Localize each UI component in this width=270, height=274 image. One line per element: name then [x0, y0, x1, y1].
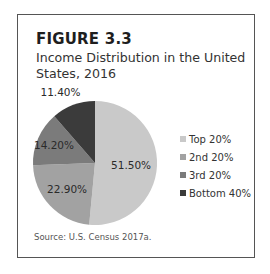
legend-label: 2nd 20%: [189, 152, 233, 163]
legend-item-2nd-20: 2nd 20%: [180, 148, 251, 166]
source-note: Source: U.S. Census 2017a.: [34, 232, 152, 242]
legend-swatch: [180, 136, 186, 142]
legend-swatch: [180, 190, 186, 196]
legend-label: Top 20%: [189, 134, 231, 145]
legend-item-bottom-40: Bottom 40%: [180, 184, 251, 202]
legend-swatch: [180, 172, 186, 178]
data-label-bottom-40: 11.40%: [40, 86, 80, 98]
legend-item-3rd-20: 3rd 20%: [180, 166, 251, 184]
data-label-2nd-20: 22.90%: [47, 183, 87, 195]
legend-swatch: [180, 154, 186, 160]
legend: Top 20%2nd 20%3rd 20%Bottom 40%: [180, 130, 251, 202]
data-label-top-20: 51.50%: [111, 159, 151, 171]
legend-label: Bottom 40%: [189, 188, 251, 199]
legend-label: 3rd 20%: [189, 170, 231, 181]
legend-item-top-20: Top 20%: [180, 130, 251, 148]
data-label-3rd-20: 14.20%: [34, 139, 74, 151]
